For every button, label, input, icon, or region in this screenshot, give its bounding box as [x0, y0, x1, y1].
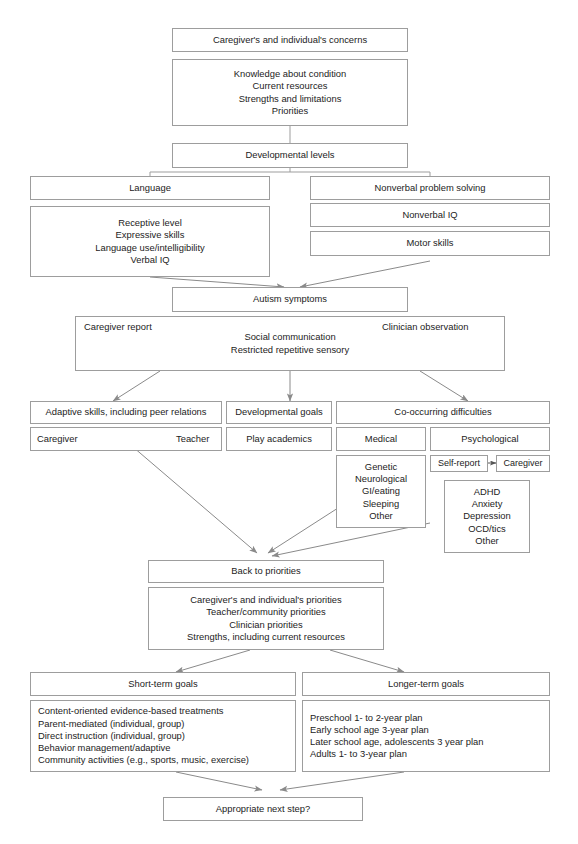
- node-cooccurring-label: Co-occurring difficulties: [394, 406, 491, 418]
- node-priorities-detail[interactable]: Caregiver's and individual's priorities …: [148, 587, 384, 650]
- flowchart-diagram: Caregiver's and individual's concerns Kn…: [0, 0, 578, 844]
- detail-line: Other: [475, 535, 498, 547]
- label-clinician-observation: Clinician observation: [382, 321, 469, 333]
- node-nonverbal-iq-label: Nonverbal IQ: [402, 209, 457, 221]
- node-language-label: Language: [129, 182, 171, 194]
- detail-line: Knowledge about condition: [234, 68, 347, 80]
- node-medical[interactable]: Medical: [336, 427, 426, 451]
- node-concerns-label: Caregiver's and individual's concerns: [213, 34, 367, 46]
- detail-line: Preschool 1- to 2-year plan: [310, 712, 423, 724]
- node-psychological-detail[interactable]: ADHD Anxiety Depression OCD/tics Other: [444, 480, 530, 553]
- detail-line: Adults 1- to 3-year plan: [310, 748, 407, 760]
- detail-line: Later school age, adolescents 3 year pla…: [310, 736, 484, 748]
- node-play-academics-label: Play academics: [246, 433, 312, 445]
- detail-line: Clinician priorities: [229, 619, 302, 631]
- detail-line: Genetic: [365, 461, 397, 473]
- detail-line: OCD/tics: [468, 523, 506, 535]
- detail-line: Strengths, including current resources: [187, 631, 345, 643]
- arrow-symptoms-to-adaptive: [113, 371, 160, 401]
- node-short-term-goals[interactable]: Short-term goals: [30, 672, 296, 696]
- node-concerns[interactable]: Caregiver's and individual's concerns: [172, 28, 408, 52]
- detail-line: Direct instruction (individual, group): [38, 730, 185, 742]
- detail-line: Depression: [463, 510, 510, 522]
- arrow-priorities-to-shortterm: [176, 650, 250, 672]
- detail-line: Social communication: [244, 331, 335, 343]
- arrow-adaptive-to-priorities: [126, 441, 257, 553]
- node-self-report-label: Self-report: [438, 457, 480, 469]
- node-back-to-priorities[interactable]: Back to priorities: [148, 560, 384, 583]
- node-short-term-detail[interactable]: Content-oriented evidence-based treatmen…: [30, 700, 296, 772]
- label-caregiver-report: Caregiver report: [84, 321, 152, 333]
- detail-line: Caregiver's and individual's priorities: [190, 594, 342, 606]
- detail-line: Parent-mediated (individual, group): [38, 718, 184, 730]
- detail-line: Restricted repetitive sensory: [231, 344, 349, 356]
- node-autism-symptoms-label: Autism symptoms: [253, 293, 327, 305]
- node-psychological[interactable]: Psychological: [430, 427, 550, 451]
- label-teacher: Teacher: [176, 433, 209, 445]
- label-caregiver: Caregiver: [37, 433, 78, 445]
- arrow-priorities-to-longerterm: [330, 650, 404, 672]
- arrow-language-to-autism: [150, 277, 284, 287]
- detail-line: Content-oriented evidence-based treatmen…: [38, 705, 224, 717]
- node-longer-term-detail[interactable]: Preschool 1- to 2-year plan Early school…: [302, 700, 550, 772]
- detail-line: Teacher/community priorities: [206, 606, 325, 618]
- detail-line: Priorities: [272, 105, 308, 117]
- detail-line: ADHD: [474, 486, 501, 498]
- node-self-report[interactable]: Self-report: [430, 455, 488, 472]
- node-adaptive-skills-label: Adaptive skills, including peer relation…: [45, 406, 206, 418]
- node-longer-term-goals[interactable]: Longer-term goals: [302, 672, 550, 696]
- detail-line: Early school age 3-year plan: [310, 724, 429, 736]
- arrow-symptoms-to-cooccurring: [420, 371, 468, 401]
- node-nonverbal-iq[interactable]: Nonverbal IQ: [310, 203, 550, 227]
- detail-line: Other: [369, 510, 392, 522]
- detail-line: Verbal IQ: [130, 254, 169, 266]
- node-short-term-goals-label: Short-term goals: [128, 678, 197, 690]
- node-motor-skills-label: Motor skills: [407, 237, 454, 249]
- node-adaptive-skills[interactable]: Adaptive skills, including peer relation…: [30, 401, 222, 424]
- node-developmental-levels-label: Developmental levels: [245, 149, 334, 161]
- arrow-medical-to-priorities: [268, 508, 338, 553]
- detail-line: Anxiety: [472, 498, 503, 510]
- detail-line: Neurological: [355, 473, 407, 485]
- detail-line: Strengths and limitations: [239, 93, 342, 105]
- node-longer-term-goals-label: Longer-term goals: [388, 678, 464, 690]
- node-language-detail[interactable]: Receptive level Expressive skills Langua…: [30, 206, 270, 277]
- node-nonverbal-label: Nonverbal problem solving: [375, 182, 486, 194]
- node-medical-label: Medical: [365, 433, 397, 445]
- node-cooccurring-difficulties[interactable]: Co-occurring difficulties: [336, 401, 550, 424]
- node-back-to-priorities-label: Back to priorities: [231, 565, 300, 577]
- detail-line: GI/eating: [362, 485, 400, 497]
- detail-line: Sleeping: [363, 498, 400, 510]
- node-developmental-goals-label: Developmental goals: [235, 406, 323, 418]
- detail-line: Current resources: [252, 80, 327, 92]
- detail-line: Language use/intelligibility: [95, 242, 204, 254]
- node-psychological-label: Psychological: [461, 433, 518, 445]
- arrow-shortterm-to-nextstep: [176, 772, 262, 790]
- node-next-step-label: Appropriate next step?: [216, 803, 310, 815]
- detail-line: Expressive skills: [116, 229, 185, 241]
- node-motor-skills[interactable]: Motor skills: [310, 231, 550, 256]
- node-caregiver-label: Caregiver: [503, 457, 542, 469]
- node-play-academics[interactable]: Play academics: [226, 427, 332, 451]
- node-nonverbal-problem-solving[interactable]: Nonverbal problem solving: [310, 176, 550, 200]
- node-caregiver[interactable]: Caregiver: [496, 455, 550, 472]
- node-autism-symptoms[interactable]: Autism symptoms: [172, 287, 408, 312]
- node-appropriate-next-step[interactable]: Appropriate next step?: [163, 797, 363, 821]
- detail-line: Behavior management/adaptive: [38, 742, 170, 754]
- node-developmental-levels[interactable]: Developmental levels: [172, 143, 408, 168]
- node-developmental-goals[interactable]: Developmental goals: [226, 401, 332, 424]
- arrow-longerterm-to-nextstep: [280, 772, 404, 790]
- detail-line: Community activities (e.g., sports, musi…: [38, 754, 249, 766]
- detail-line: Receptive level: [118, 217, 182, 229]
- node-language[interactable]: Language: [30, 176, 270, 200]
- node-medical-detail[interactable]: Genetic Neurological GI/eating Sleeping …: [336, 455, 426, 528]
- node-concerns-detail[interactable]: Knowledge about condition Current resour…: [172, 59, 408, 126]
- arrow-motor-to-autism: [300, 261, 430, 287]
